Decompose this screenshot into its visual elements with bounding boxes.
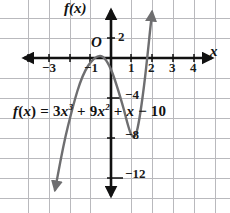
equation-term1-exp: 3 bbox=[68, 102, 73, 112]
equation-annotation: f(x) = 3x3 + 9x2 + x − 10 bbox=[13, 103, 166, 119]
equation-minus: − bbox=[138, 103, 147, 119]
equation-term1-coef: 3 bbox=[53, 103, 61, 119]
equation-plus-2: + bbox=[114, 103, 123, 119]
y-tick-label-neg4: −4 bbox=[125, 88, 139, 101]
y-tick-label-neg8: −8 bbox=[125, 128, 139, 141]
x-tick-label-neg3: −3 bbox=[42, 61, 56, 74]
y-axis-label: f(x) bbox=[64, 1, 87, 16]
origin-label: O bbox=[91, 35, 102, 50]
equation-term3-var: x bbox=[127, 103, 135, 119]
equation-term2-exp: 2 bbox=[105, 102, 110, 112]
x-axis-label: x bbox=[210, 44, 218, 59]
x-tick-label-1: 1 bbox=[128, 61, 135, 74]
x-tick-label-4: 4 bbox=[190, 61, 197, 74]
x-tick-label-neg1: −1 bbox=[84, 61, 98, 74]
y-tick-label-neg12: −12 bbox=[125, 167, 145, 180]
equation-constant: 10 bbox=[151, 103, 166, 119]
y-tick-label-2: 2 bbox=[118, 30, 125, 43]
x-tick-label-2: 2 bbox=[148, 61, 155, 74]
equation-paren-close: ) bbox=[31, 103, 36, 119]
equation-equals: = bbox=[40, 103, 49, 119]
x-tick-label-3: 3 bbox=[169, 61, 176, 74]
graph-figure: f(x) x O −3 −1 1 2 3 4 2 −4 −8 −12 f(x) … bbox=[0, 0, 230, 213]
equation-plus-1: + bbox=[77, 103, 86, 119]
equation-arg: x bbox=[23, 103, 31, 119]
equation-term2-var: x bbox=[97, 103, 105, 119]
